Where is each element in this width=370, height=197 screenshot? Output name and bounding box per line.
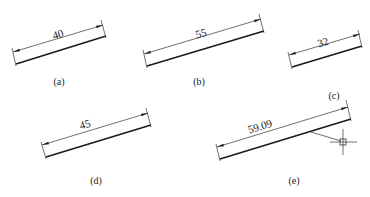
dimension-text: 45 — [78, 117, 92, 132]
figure-caption: (c) — [328, 90, 339, 102]
object-line — [292, 46, 362, 67]
dimension-text: 40 — [51, 27, 65, 42]
object-line — [16, 36, 106, 64]
dimension-diagram: 40 (a) 55 (b) 32 (c) 45 (d) 59.09 — [0, 0, 370, 197]
dimension-text: 59.09 — [246, 117, 274, 136]
figure-c: 32 (c) — [288, 30, 362, 102]
figure-d: 45 (d) — [41, 108, 151, 187]
extension-line-right — [346, 100, 351, 121]
dimension-text: 32 — [316, 35, 330, 50]
extension-line-right — [358, 30, 362, 48]
figure-caption: (a) — [53, 76, 64, 88]
extension-line-right — [101, 20, 106, 38]
dimension-text: 55 — [194, 26, 208, 41]
extension-line-right — [146, 108, 151, 127]
leader-line — [311, 132, 341, 141]
figure-e: 59.09 (e) — [216, 100, 357, 187]
dimension-line — [42, 113, 148, 145]
extension-line-right — [259, 14, 264, 33]
object-line — [46, 125, 151, 157]
crosshair-pickbox-icon — [330, 129, 357, 155]
figure-b: 55 (b) — [143, 14, 264, 88]
object-line — [220, 119, 351, 159]
figure-caption: (e) — [288, 175, 299, 187]
extension-line-left — [12, 48, 16, 66]
figure-caption: (b) — [193, 76, 205, 88]
figure-a: 40 (a) — [12, 20, 106, 88]
extension-line-left — [143, 50, 147, 68]
dimension-line — [217, 107, 348, 147]
figure-caption: (d) — [90, 175, 102, 187]
